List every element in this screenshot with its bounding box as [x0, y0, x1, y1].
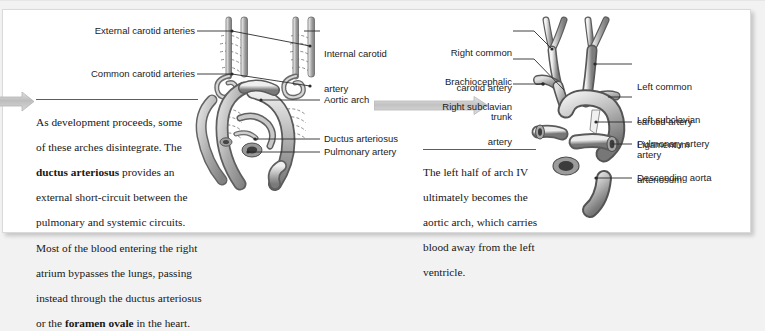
top-divider [0, 0, 765, 1]
middle-panel-illustration [196, 14, 326, 189]
label-internal-carotid-artery-line1: Internal carotid [324, 48, 387, 60]
caption-line: atrium bypasses the lungs, passing [36, 267, 208, 280]
caption-line: blood away from the left [423, 241, 543, 254]
emphasis-ductus-arteriosus: ductus arteriosus [36, 166, 119, 178]
caption-line: instead through the ductus arteriosus [36, 292, 208, 305]
caption-line: As development proceeds, some [36, 116, 208, 129]
middle-panel-caption: As development proceeds, some of these a… [36, 103, 208, 331]
label-common-carotid-arteries: Common carotid arteries [60, 68, 195, 80]
caption-line: or the foramen ovale in the heart. [36, 317, 208, 330]
right-panel-caption: The left half of arch IV ultimately beco… [423, 153, 543, 292]
caption-line: aortic arch, which carries [423, 216, 543, 229]
caption-line: external short-circuit between the [36, 191, 208, 204]
caption-line: ultimately becomes the [423, 191, 543, 204]
label-ligamentum-arteriosum: Ligamentum arteriosum [637, 116, 689, 208]
middle-caption-rule [36, 99, 198, 100]
caption-line: pulmonary and systemic circuits. [36, 216, 208, 229]
caption-line: ductus arteriosus provides an [36, 166, 208, 179]
label-descending-aorta: Descending aorta [637, 172, 711, 184]
caption-line: ventricle. [423, 266, 543, 279]
label-external-carotid-arteries: External carotid arteries [60, 25, 195, 37]
label-internal-carotid-artery-line2: artery [324, 83, 387, 95]
label-aortic-arch: Aortic arch [324, 94, 369, 106]
emphasis-foramen-ovale: foramen ovale [65, 317, 134, 329]
caption-line: Most of the blood entering the right [36, 242, 208, 255]
label-right-subclavian-artery-line2: artery [400, 136, 512, 148]
label-right-subclavian-artery-line1: Right subclavian [400, 101, 512, 113]
label-ductus-arteriosus: Ductus arteriosus [324, 133, 398, 145]
label-pulmonary-artery-right: Pulmonary artery [637, 138, 709, 150]
right-caption-rule [423, 149, 536, 150]
caption-line: The left half of arch IV [423, 166, 543, 179]
caption-line: of these arches disintegrate. The [36, 141, 208, 154]
label-pulmonary-artery: Pulmonary artery [324, 146, 396, 158]
